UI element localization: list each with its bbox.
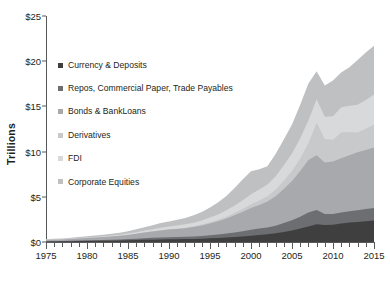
x-tick-mark-minor <box>95 243 96 247</box>
x-tick-mark-minor <box>358 243 359 247</box>
x-tick-mark-minor <box>243 243 244 247</box>
x-tick-mark-minor <box>71 243 72 247</box>
x-tick-mark-minor <box>226 243 227 247</box>
x-tick-mark-minor <box>153 243 154 247</box>
legend-item[interactable]: Repos, Commercial Paper, Trade Payables <box>58 81 233 95</box>
x-tick-mark-major <box>128 243 129 249</box>
x-tick-mark-minor <box>144 243 145 247</box>
x-tick-mark-major <box>292 243 293 249</box>
x-tick-mark-minor <box>177 243 178 247</box>
x-tick-mark-minor <box>112 243 113 247</box>
x-tick-mark-minor <box>79 243 80 247</box>
legend-label: Currency & Deposits <box>68 61 147 70</box>
legend-label: Corporate Equities <box>68 178 139 187</box>
legend-label: Bonds & BankLoans <box>68 107 146 116</box>
legend-item[interactable]: Bonds & BankLoans <box>58 105 233 119</box>
x-tick-mark-minor <box>276 243 277 247</box>
y-tick-mark <box>42 16 46 17</box>
legend-swatch-icon <box>58 133 63 138</box>
x-tick-label: 1975 <box>35 250 56 261</box>
x-tick-mark-major <box>251 243 252 249</box>
x-tick-label: 2010 <box>322 250 343 261</box>
x-tick-mark-major <box>333 243 334 249</box>
chart-legend: Currency & DepositsRepos, Commercial Pap… <box>58 58 233 198</box>
x-tick-mark-minor <box>349 243 350 247</box>
x-tick-mark-minor <box>202 243 203 247</box>
legend-swatch-icon <box>58 179 63 184</box>
x-tick-label: 2015 <box>363 250 384 261</box>
x-tick-mark-minor <box>54 243 55 247</box>
legend-swatch-icon <box>58 86 63 91</box>
x-tick-mark-minor <box>194 243 195 247</box>
x-tick-label: 2005 <box>281 250 302 261</box>
x-tick-mark-major <box>374 243 375 249</box>
x-tick-mark-minor <box>136 243 137 247</box>
x-tick-mark-minor <box>103 243 104 247</box>
x-tick-label: 1985 <box>117 250 138 261</box>
x-tick-label: 1995 <box>199 250 220 261</box>
legend-item[interactable]: FDI <box>58 152 233 166</box>
x-tick-mark-minor <box>218 243 219 247</box>
legend-item[interactable]: Currency & Deposits <box>58 58 233 72</box>
x-tick-mark-minor <box>325 243 326 247</box>
x-tick-mark-major <box>87 243 88 249</box>
x-tick-mark-minor <box>185 243 186 247</box>
x-tick-mark-minor <box>366 243 367 247</box>
y-tick-mark <box>42 151 46 152</box>
x-tick-mark-minor <box>235 243 236 247</box>
y-tick-mark <box>42 196 46 197</box>
x-tick-mark-minor <box>308 243 309 247</box>
x-tick-mark-minor <box>120 243 121 247</box>
x-tick-label: 1990 <box>158 250 179 261</box>
x-tick-mark-minor <box>267 243 268 247</box>
legend-item[interactable]: Derivatives <box>58 128 233 142</box>
y-axis-title: Trillions <box>2 0 20 287</box>
legend-swatch-icon <box>58 109 63 114</box>
x-tick-mark-minor <box>284 243 285 247</box>
stacked-area-chart: Trillions $0$5$10$15$20$25 1975198019851… <box>0 0 390 287</box>
legend-label: FDI <box>68 154 82 163</box>
y-tick-mark <box>42 61 46 62</box>
legend-item[interactable]: Corporate Equities <box>58 175 233 189</box>
y-tick-mark <box>42 106 46 107</box>
x-tick-mark-minor <box>161 243 162 247</box>
x-tick-mark-minor <box>341 243 342 247</box>
x-tick-mark-minor <box>259 243 260 247</box>
x-tick-mark-minor <box>300 243 301 247</box>
legend-swatch-icon <box>58 156 63 161</box>
x-tick-mark-major <box>210 243 211 249</box>
legend-label: Derivatives <box>68 131 111 140</box>
x-tick-mark-major <box>169 243 170 249</box>
x-tick-label: 2000 <box>240 250 261 261</box>
x-tick-mark-minor <box>317 243 318 247</box>
x-tick-mark-minor <box>62 243 63 247</box>
x-axis-ticks: 197519801985199019952000200520102015 <box>46 243 375 273</box>
legend-label: Repos, Commercial Paper, Trade Payables <box>68 84 233 93</box>
legend-swatch-icon <box>58 63 63 68</box>
x-tick-mark-major <box>46 243 47 249</box>
x-tick-label: 1980 <box>76 250 97 261</box>
